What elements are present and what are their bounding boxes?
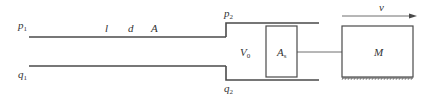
label-pipe-area: A bbox=[150, 22, 158, 34]
label-mass: M bbox=[373, 46, 384, 58]
label-pipe-length: l bbox=[105, 22, 108, 34]
cylinder-lower-wall bbox=[226, 66, 319, 80]
label-chamber-volume: V0 bbox=[240, 46, 251, 60]
label-piston-area: As bbox=[276, 46, 287, 60]
label-p1: p1 bbox=[17, 19, 28, 33]
velocity-arrow-icon bbox=[342, 14, 417, 19]
cylinder-upper-wall bbox=[226, 23, 319, 37]
label-q2: q2 bbox=[224, 82, 234, 96]
label-q1: q1 bbox=[18, 68, 28, 82]
label-p2: p2 bbox=[223, 7, 234, 21]
ground-hatching bbox=[342, 78, 413, 80]
label-velocity: v bbox=[379, 1, 384, 13]
hydraulic-diagram: p1 q1 l d A p2 q2 V0 As M v bbox=[0, 0, 433, 98]
label-pipe-diameter: d bbox=[128, 22, 134, 34]
